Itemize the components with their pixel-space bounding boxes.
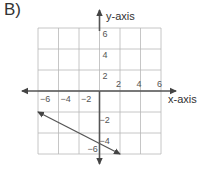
x-tick-label: 2	[116, 79, 121, 89]
y-tick-label: 6	[103, 29, 108, 39]
x-axis-label: x-axis	[168, 93, 197, 105]
x-tick-label: −6	[40, 94, 50, 104]
x-tick-label: 6	[157, 79, 162, 89]
y-tick-label: −6	[88, 144, 98, 154]
x-tick-label: −2	[81, 94, 91, 104]
coordinate-plane: −6−4−2246642−2−4−6 y-axis x-axis	[0, 0, 198, 170]
y-axis-label: y-axis	[106, 10, 135, 22]
y-tick-label: 4	[103, 50, 108, 60]
y-tick-label: −2	[100, 115, 110, 125]
x-tick-label: −4	[61, 94, 71, 104]
y-tick-label: 2	[103, 71, 108, 81]
x-tick-label: 4	[137, 79, 142, 89]
